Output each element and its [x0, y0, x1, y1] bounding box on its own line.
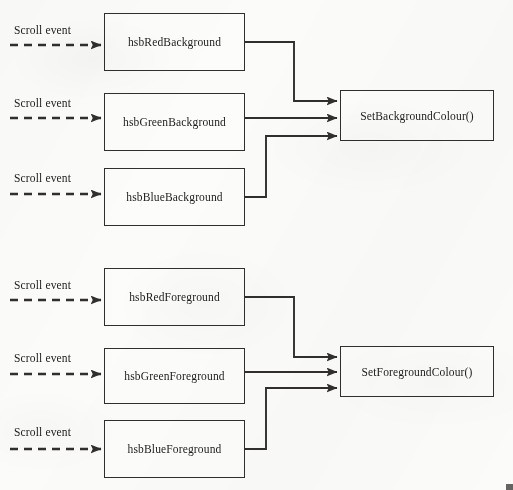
- connector-blue-background: [245, 136, 337, 197]
- diagram-canvas: Scroll event Scroll event Scroll event h…: [0, 0, 513, 490]
- node-label-hsb-blue-background: hsbBlueBackground: [122, 191, 226, 203]
- node-label-set-foreground-colour: SetForegroundColour(): [357, 366, 476, 378]
- connector-red-foreground: [245, 297, 337, 357]
- node-label-set-background-colour: SetBackgroundColour(): [356, 110, 478, 122]
- node-label-hsb-blue-foreground: hsbBlueForeground: [124, 443, 226, 455]
- event-label-blue-background: Scroll event: [14, 172, 71, 184]
- connector-blue-foreground: [245, 388, 337, 449]
- node-label-hsb-red-foreground: hsbRedForeground: [125, 291, 224, 303]
- node-hsb-green-background[interactable]: hsbGreenBackground: [104, 93, 245, 151]
- node-label-hsb-green-background: hsbGreenBackground: [119, 116, 230, 128]
- event-label-green-foreground: Scroll event: [14, 352, 71, 364]
- node-hsb-green-foreground[interactable]: hsbGreenForeground: [104, 348, 245, 404]
- node-hsb-red-foreground[interactable]: hsbRedForeground: [104, 268, 245, 326]
- node-label-hsb-green-foreground: hsbGreenForeground: [120, 370, 228, 382]
- event-label-red-foreground: Scroll event: [14, 279, 71, 291]
- page-corner-scan-artifact: [506, 484, 513, 490]
- connectors-background-group: [245, 42, 337, 197]
- event-label-red-background: Scroll event: [14, 24, 71, 36]
- node-set-foreground-colour[interactable]: SetForegroundColour(): [340, 346, 494, 397]
- connector-red-background: [245, 42, 337, 101]
- node-hsb-red-background[interactable]: hsbRedBackground: [104, 13, 245, 71]
- node-label-hsb-red-background: hsbRedBackground: [124, 36, 225, 48]
- connectors-foreground-group: [245, 297, 337, 449]
- node-hsb-blue-background[interactable]: hsbBlueBackground: [104, 168, 245, 226]
- connector-layer: [0, 0, 513, 490]
- event-label-green-background: Scroll event: [14, 97, 71, 109]
- node-hsb-blue-foreground[interactable]: hsbBlueForeground: [104, 420, 245, 478]
- node-set-background-colour[interactable]: SetBackgroundColour(): [340, 90, 494, 141]
- event-label-blue-foreground: Scroll event: [14, 426, 71, 438]
